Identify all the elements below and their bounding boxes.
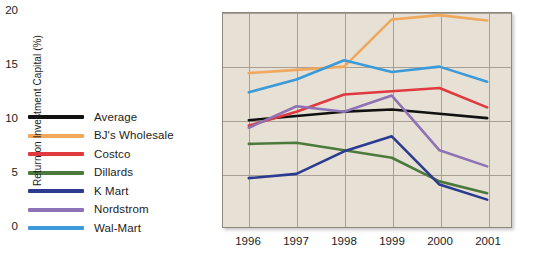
legend-label: Dillards [94,167,133,179]
plot-area-wrapper [222,12,512,228]
legend-label: BJ's Wholesale [94,130,174,142]
series-line-nordstrom [249,96,487,167]
y-tick-label: 20 [0,4,18,16]
y-tick-label: 10 [0,112,18,124]
x-tick-label: 1998 [321,235,367,247]
x-tick-label: 1996 [225,235,271,247]
y-tick-label: 5 [0,166,18,178]
legend-swatch [28,226,84,230]
legend-item-k-mart: K Mart [28,182,188,201]
series-lines [223,13,511,228]
series-line-costco [249,88,487,126]
series-line-wal-mart [249,60,487,92]
legend-item-costco: Costco [28,145,188,164]
x-tick-label: 2001 [465,235,511,247]
chart-legend: AverageBJ's WholesaleCostcoDillardsK Mar… [28,108,188,238]
legend-label: Average [94,112,137,124]
y-tick-label: 15 [0,58,18,70]
series-line-k-mart [249,136,487,199]
series-line-bj-s-wholesale [249,15,487,73]
x-tick-label: 2000 [417,235,463,247]
legend-label: Nordstrom [94,204,149,216]
legend-item-wal-mart: Wal-Mart [28,219,188,238]
y-axis-title: Return on Investment Capital (%) [32,11,43,211]
legend-item-dillards: Dillards [28,164,188,183]
legend-item-nordstrom: Nordstrom [28,201,188,220]
legend-item-bj-s-wholesale: BJ's Wholesale [28,127,188,146]
legend-label: Costco [94,149,130,161]
plot-area [222,12,512,228]
y-tick-label: 0 [0,220,18,232]
series-line-dillards [249,143,487,193]
chart-figure: AverageBJ's WholesaleCostcoDillardsK Mar… [0,0,534,266]
x-tick-label: 1997 [273,235,319,247]
legend-item-average: Average [28,108,188,127]
legend-label: K Mart [94,186,128,198]
x-tick-label: 1999 [369,235,415,247]
legend-label: Wal-Mart [94,223,141,235]
